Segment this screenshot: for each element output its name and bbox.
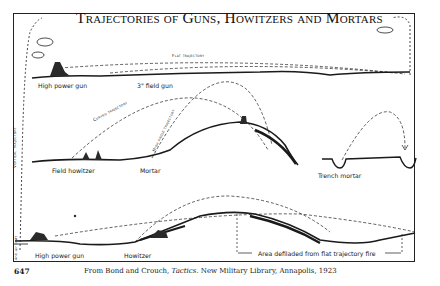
caption-title: Tactics — [172, 267, 197, 275]
caption-suffix: . New Military Library, Annapolis, 1923 — [196, 267, 336, 275]
caption-prefix: From Bond and Crouch, — [84, 267, 172, 275]
high-power-gun-label-bottom: High power gun — [35, 252, 84, 259]
vertical-trajectory-label: Vertical trajectory — [12, 127, 17, 168]
trench-mortar-label: Trench mortar — [318, 172, 361, 179]
source-caption: From Bond and Crouch, Tactics. New Milit… — [84, 267, 337, 275]
page-number: 647 — [14, 267, 30, 276]
howitzer-label: Howitzer — [124, 252, 151, 259]
field-howitzer-label: Field howitzer — [52, 167, 95, 174]
high-power-gun-label-top: High power gun — [38, 82, 87, 89]
trajectory-illustration — [0, 0, 440, 286]
defilade-area-label: Area defiladed from flat trajectory fire — [258, 250, 376, 257]
mortar-label: Mortar — [140, 167, 160, 174]
flat-trajectory-label: Flat trajectory — [172, 53, 204, 58]
field-gun-label: 3" field gun — [137, 82, 173, 89]
anti-aircraft-label: Anti-air craft — [14, 236, 18, 260]
